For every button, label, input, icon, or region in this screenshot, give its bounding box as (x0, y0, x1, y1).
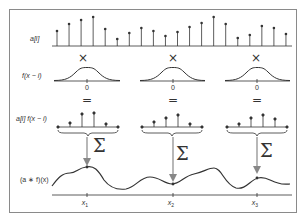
kernel-label: f(x − i) (22, 72, 42, 80)
result-label: (a ∗ f)(x) (20, 176, 49, 184)
signal-stem-head (152, 30, 155, 33)
kernel-origin-3: 0 (255, 84, 259, 91)
signal-stem-head (128, 32, 131, 35)
product-1 (57, 112, 119, 136)
signal-stem-head (285, 33, 288, 36)
signal-stem-head (200, 22, 203, 25)
equals-sign-1: = (82, 93, 92, 107)
multiply-sign-1: × (78, 51, 88, 65)
convolution-diagram: a[i] × × × f(x − i) 0 0 0 = = = a[i] f(x… (0, 0, 308, 221)
multiply-sign-3: × (251, 51, 261, 65)
kernel-origin-2: 0 (171, 84, 175, 91)
sample-point-1 (86, 166, 89, 169)
equals-sign-2: = (168, 93, 178, 107)
sum-arrow-1 (83, 137, 91, 166)
sample-point-3 (256, 177, 259, 180)
kernel-3 (225, 68, 290, 84)
signal-label: a[i] (30, 35, 40, 43)
signal-stem-head (188, 26, 191, 29)
signal-stem-head (80, 19, 83, 22)
x3-label: x3 (251, 199, 259, 208)
signal-stem-head (224, 23, 227, 26)
signal-stem-head (68, 23, 71, 26)
signal-stem-head (273, 27, 276, 30)
signal-stem-head (92, 16, 95, 19)
signal-stem-head (164, 35, 167, 38)
signal-stem-head (236, 37, 239, 40)
sample-point-2 (172, 183, 175, 186)
signal-stem-head (140, 27, 143, 30)
sum-sign-2: Σ (176, 143, 189, 164)
product-label: a[i] f(x − i) (16, 115, 47, 123)
kernel-1 (54, 68, 120, 84)
signal-stem-head (249, 34, 252, 37)
sum-sign-3: Σ (260, 140, 273, 161)
x1-label: x1 (81, 199, 89, 208)
signal-stem-head (116, 38, 119, 41)
equals-sign-3: = (252, 93, 262, 107)
signal-stem-head (261, 25, 264, 28)
multiply-sign-2: × (168, 51, 178, 65)
signal-stem-head (212, 16, 215, 19)
sum-sign-1: Σ (93, 135, 106, 156)
product-2 (141, 114, 203, 136)
kernel-origin-1: 0 (85, 84, 89, 91)
signal-stem-head (176, 31, 179, 34)
product-3 (226, 114, 288, 136)
signal-stem-head (56, 30, 59, 33)
signal-stem-head (104, 28, 107, 31)
kernel-2 (140, 68, 205, 84)
signal-stems (56, 16, 288, 46)
x2-label: x2 (167, 199, 175, 208)
